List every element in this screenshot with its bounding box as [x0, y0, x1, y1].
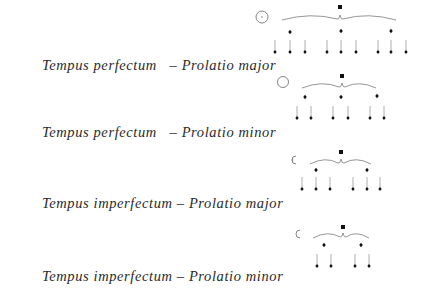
minim-note-icon: [353, 264, 356, 268]
brevis-note-icon: [341, 225, 345, 229]
tempus-imperfectum-sign-icon: [296, 230, 300, 238]
grouping-brace: [282, 15, 396, 20]
tempus-perfectum-sign-icon: [278, 77, 289, 88]
semibreve-note-icon: [339, 95, 343, 99]
minim-note-icon: [351, 187, 354, 191]
semibreve-note-icon: [322, 243, 326, 247]
grouping-brace: [302, 83, 376, 88]
minim-note-icon: [389, 50, 392, 54]
minim-note-icon: [328, 187, 331, 191]
minim-note-icon: [303, 50, 306, 54]
mensuration-dot-icon: [261, 16, 263, 18]
minim-note-icon: [367, 264, 370, 268]
minim-note-icon: [273, 50, 276, 54]
minim-note-icon: [329, 264, 332, 268]
minim-note-icon: [325, 50, 328, 54]
mensuration-dot-icon: [292, 159, 294, 161]
minim-note-icon: [404, 50, 407, 54]
minim-note-icon: [354, 50, 357, 54]
minim-note-icon: [376, 50, 379, 54]
minim-note-icon: [300, 187, 303, 191]
semibreve-note-icon: [288, 30, 292, 34]
minim-note-icon: [378, 187, 381, 191]
brevis-note-icon: [338, 5, 342, 9]
semibreve-note-icon: [359, 243, 363, 247]
semibreve-note-icon: [339, 29, 343, 33]
minim-note-icon: [331, 116, 334, 120]
semibreve-note-icon: [375, 94, 379, 98]
semibreve-note-icon: [314, 168, 318, 172]
grouping-brace: [310, 159, 371, 164]
mensural-notation-diagrams: [0, 0, 433, 290]
grouping-brace: [313, 233, 369, 238]
minim-note-icon: [295, 116, 298, 120]
minim-note-icon: [288, 50, 291, 54]
minim-note-icon: [309, 116, 312, 120]
brevis-note-icon: [340, 74, 344, 78]
semibreve-note-icon: [303, 95, 307, 99]
brevis-note-icon: [339, 150, 343, 154]
minim-note-icon: [339, 50, 342, 54]
minim-note-icon: [346, 116, 349, 120]
minim-note-icon: [315, 264, 318, 268]
minim-note-icon: [314, 187, 317, 191]
minim-note-icon: [365, 187, 368, 191]
minim-note-icon: [382, 116, 385, 120]
semibreve-note-icon: [389, 29, 393, 33]
minim-note-icon: [368, 116, 371, 120]
semibreve-note-icon: [365, 168, 369, 172]
